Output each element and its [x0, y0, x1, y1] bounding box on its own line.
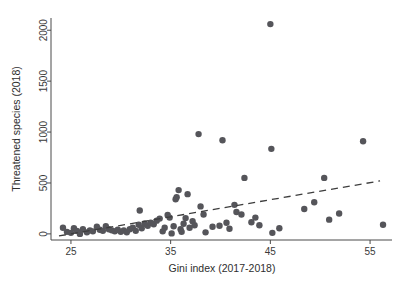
data-point: [276, 225, 282, 231]
data-point: [182, 215, 188, 221]
x-tick-label: 55: [365, 246, 377, 257]
data-point: [168, 230, 174, 236]
data-point: [269, 230, 275, 236]
data-point: [321, 175, 327, 181]
y-tick-label: 500: [39, 174, 50, 191]
data-point: [161, 225, 167, 231]
y-tick-label: 1500: [39, 70, 50, 93]
y-tick-label: 2000: [39, 19, 50, 42]
x-axis-title: Gini index (2017-2018): [169, 262, 276, 274]
data-point: [170, 223, 176, 229]
data-point: [238, 211, 244, 217]
data-point: [256, 222, 262, 228]
y-axis-ticks: 0500100015002000: [39, 19, 52, 237]
data-point: [226, 226, 232, 232]
data-point: [202, 229, 208, 235]
data-point: [178, 229, 184, 235]
y-axis-title: Threatened species (2018): [10, 66, 22, 192]
scatter-plot-figure: 0500100015002000 25354555 Threatened spe…: [0, 0, 400, 286]
data-points-group: [60, 21, 386, 237]
data-point: [252, 214, 258, 220]
data-point: [301, 206, 307, 212]
data-point: [219, 137, 225, 143]
data-point: [223, 219, 229, 225]
data-point: [200, 211, 206, 217]
data-point: [197, 203, 203, 209]
data-point: [267, 21, 273, 27]
data-point: [180, 221, 186, 227]
data-point: [173, 194, 179, 200]
y-tick-label: 0: [39, 231, 50, 237]
data-point: [184, 191, 190, 197]
data-point: [326, 216, 332, 222]
data-point: [216, 223, 222, 229]
data-point: [133, 228, 139, 234]
data-point: [137, 207, 143, 213]
x-axis-ticks: 25354555: [65, 240, 376, 257]
x-tick-label: 35: [165, 246, 177, 257]
x-tick-label: 45: [265, 246, 277, 257]
data-point: [195, 131, 201, 137]
data-point: [336, 210, 342, 216]
data-point: [241, 175, 247, 181]
data-point: [268, 146, 274, 152]
y-tick-label: 1000: [39, 120, 50, 143]
data-point: [209, 224, 215, 230]
data-point: [311, 199, 317, 205]
plot-canvas: 0500100015002000 25354555 Threatened spe…: [0, 0, 400, 286]
x-tick-label: 25: [65, 246, 77, 257]
data-point: [380, 222, 386, 228]
data-point: [360, 138, 366, 144]
data-point: [191, 222, 197, 228]
data-point: [175, 187, 181, 193]
